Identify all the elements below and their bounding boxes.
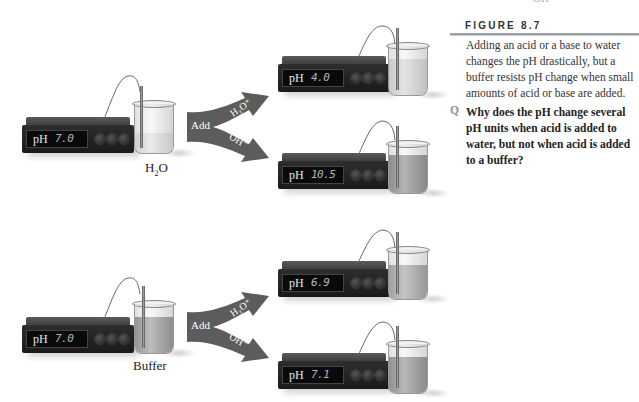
figure-title-rule	[450, 33, 639, 36]
question-marker: Q	[450, 104, 459, 116]
ph-probe	[396, 326, 399, 388]
figure-title: FIGURE 8.7	[465, 20, 541, 31]
beaker-buffer-base	[386, 340, 430, 396]
figure-caption: Adding an acid or a base to water change…	[466, 37, 638, 101]
buffer-liquid	[389, 357, 427, 393]
figure-question: Why does the pH change several pH units …	[466, 104, 638, 168]
